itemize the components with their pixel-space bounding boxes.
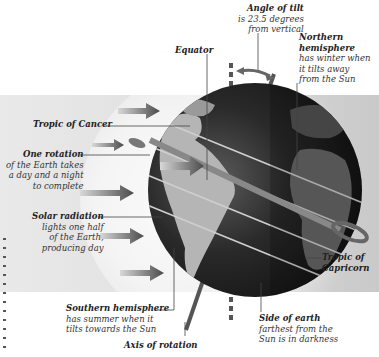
label-northern-hemisphere: Northern hemisphere has winter when it t… <box>299 32 371 85</box>
earth-tilt-diagram: Angle of tilt is 23.5 degrees from verti… <box>0 0 379 357</box>
sun-arrow-2 <box>92 139 124 151</box>
label-southern-hemisphere: Southern hemisphere has summer when it t… <box>66 303 169 335</box>
label-one-rotation: One rotation of the Earth takes a day an… <box>6 149 84 191</box>
label-angle-of-tilt: Angle of tilt is 23.5 degrees from verti… <box>238 3 304 35</box>
label-axis-of-rotation: Axis of rotation <box>124 340 198 351</box>
leader-southern <box>154 248 174 310</box>
label-side-of-earth: Side of earth farthest from the Sun is i… <box>259 313 338 345</box>
sun-arrow-5 <box>120 265 164 281</box>
label-tropic-of-cancer: Tropic of Cancer <box>33 119 112 130</box>
label-solar-radiation: Solar radiation lights one half of the E… <box>32 211 104 253</box>
sun-arrow-3 <box>80 185 134 201</box>
label-tropic-of-capricorn: Tropic of Capricorn <box>322 252 369 273</box>
sun-arrow-4 <box>100 228 144 244</box>
tilt-angle-arrow <box>240 70 270 76</box>
label-equator: Equator <box>175 45 213 56</box>
sun-arrow-1 <box>118 103 160 119</box>
